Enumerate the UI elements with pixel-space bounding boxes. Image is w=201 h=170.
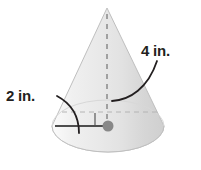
radius-dimension-label: 2 in. — [6, 87, 35, 104]
cone-illustration — [0, 0, 201, 170]
cone-diagram: 4 in. 2 in. — [0, 0, 201, 170]
center-dot — [103, 121, 114, 132]
height-dimension-label: 4 in. — [141, 42, 170, 59]
